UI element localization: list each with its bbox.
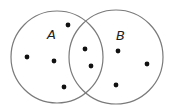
- element-dot: [25, 55, 30, 60]
- venn-diagram: AB: [0, 0, 171, 105]
- element-dot: [52, 59, 57, 64]
- element-dot: [83, 47, 88, 52]
- element-dot: [116, 49, 121, 54]
- set-label-b: B: [116, 28, 125, 43]
- element-dot: [89, 64, 94, 69]
- element-dot: [145, 62, 150, 67]
- element-dot: [66, 23, 71, 28]
- set-label-a: A: [46, 27, 56, 42]
- element-dot: [114, 83, 119, 88]
- set-circle-b: [69, 10, 163, 104]
- element-dot: [62, 85, 67, 90]
